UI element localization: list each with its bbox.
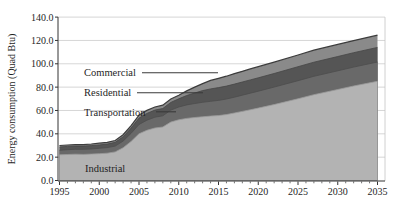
y-tick-label: 20.0 <box>36 152 54 163</box>
x-tick-label: 2005 <box>129 186 149 197</box>
x-tick-label: 2015 <box>209 186 229 197</box>
x-tick-label: 2025 <box>288 186 308 197</box>
y-tick-label: 60.0 <box>36 105 54 116</box>
x-tick-label: 2000 <box>89 186 109 197</box>
stacked-area-chart: 0.020.040.060.080.0100.0120.0140.0199520… <box>0 0 394 209</box>
y-tick-label: 80.0 <box>36 82 54 93</box>
x-tick-label: 2030 <box>328 186 348 197</box>
y-tick-label: 140.0 <box>31 12 54 23</box>
y-tick-label: 0.0 <box>41 175 54 186</box>
x-tick-label: 2010 <box>169 186 189 197</box>
x-tick-label: 1995 <box>50 186 70 197</box>
y-tick-label: 40.0 <box>36 128 54 139</box>
x-tick-label: 2035 <box>368 186 388 197</box>
industrial-label: Industrial <box>85 163 125 174</box>
residential-label: Residential <box>84 87 131 98</box>
y-tick-label: 120.0 <box>31 35 54 46</box>
x-tick-label: 2020 <box>248 186 268 197</box>
y-axis-title: Energy consumption (Quad Btu) <box>6 34 18 165</box>
y-tick-label: 100.0 <box>31 58 54 69</box>
commercial-label: Commercial <box>84 67 136 78</box>
figure-canvas: 0.020.040.060.080.0100.0120.0140.0199520… <box>0 0 394 209</box>
transportation-label: Transportation <box>84 107 146 118</box>
